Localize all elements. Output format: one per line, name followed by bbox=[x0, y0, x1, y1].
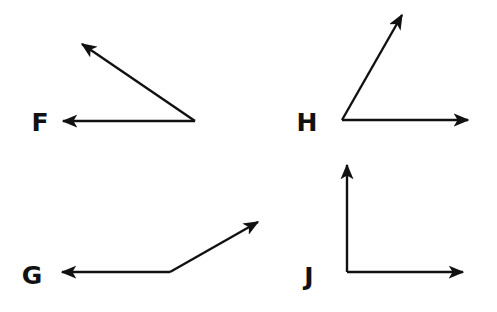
angle-j: J bbox=[302, 165, 463, 291]
angles-canvas: F H G J bbox=[0, 0, 497, 312]
arrow-icon bbox=[170, 222, 258, 272]
angle-label-f: F bbox=[31, 108, 48, 137]
angle-label-g: G bbox=[22, 261, 43, 290]
angles-figure: F H G J bbox=[0, 0, 497, 312]
angle-label-j: J bbox=[302, 262, 313, 291]
angle-label-h: H bbox=[297, 108, 318, 137]
arrow-icon bbox=[342, 15, 402, 120]
angle-g: G bbox=[22, 222, 258, 290]
angle-f: F bbox=[31, 44, 195, 137]
arrow-icon bbox=[82, 44, 195, 121]
angle-h: H bbox=[297, 15, 468, 137]
